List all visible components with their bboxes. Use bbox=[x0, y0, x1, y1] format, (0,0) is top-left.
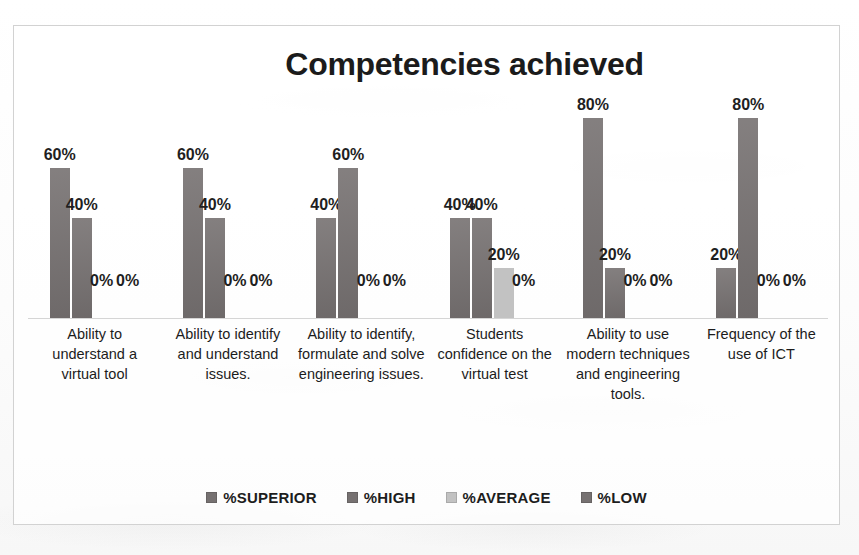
category-axis-line bbox=[28, 318, 828, 319]
category-label: Ability to identify, formulate and solve… bbox=[295, 324, 428, 404]
category-label: Ability to identify and understand issue… bbox=[161, 324, 294, 404]
bar-high[interactable] bbox=[472, 218, 492, 318]
bar-value-label: 0% bbox=[509, 272, 539, 290]
bar-superior[interactable] bbox=[583, 118, 603, 318]
bar-group: 40%40%20%0% bbox=[428, 98, 561, 318]
bar-value-label: 20% bbox=[482, 246, 526, 264]
bar-group: 80%20%0%0% bbox=[561, 98, 694, 318]
bar-value-label: 60% bbox=[171, 146, 215, 164]
bar-superior[interactable] bbox=[183, 168, 203, 318]
bar-group: 60%40%0%0% bbox=[161, 98, 294, 318]
legend-label: %LOW bbox=[598, 489, 647, 506]
legend-item[interactable]: %AVERAGE bbox=[446, 489, 551, 506]
bar-value-label: 0% bbox=[779, 272, 809, 290]
bar-group: 20%80%0%0% bbox=[695, 98, 828, 318]
bar-superior[interactable] bbox=[450, 218, 470, 318]
bar-high[interactable] bbox=[205, 218, 225, 318]
chart-frame: Competencies achieved 60%40%0%0%60%40%0%… bbox=[13, 25, 840, 525]
bar-value-label: 0% bbox=[646, 272, 676, 290]
plot-area: 60%40%0%0%60%40%0%0%40%60%0%0%40%40%20%0… bbox=[28, 98, 828, 318]
bar-superior[interactable] bbox=[716, 268, 736, 318]
legend-label: %SUPERIOR bbox=[223, 489, 317, 506]
chart-legend: %SUPERIOR%HIGH%AVERAGE%LOW bbox=[14, 489, 839, 506]
bar-value-label: 80% bbox=[726, 96, 770, 114]
legend-swatch-icon bbox=[581, 492, 592, 503]
bar-group: 40%60%0%0% bbox=[295, 98, 428, 318]
legend-item[interactable]: %LOW bbox=[581, 489, 647, 506]
bar-value-label: 40% bbox=[193, 196, 237, 214]
legend-item[interactable]: %SUPERIOR bbox=[206, 489, 317, 506]
bar-value-label: 0% bbox=[246, 272, 276, 290]
bar-value-label: 60% bbox=[38, 146, 82, 164]
legend-swatch-icon bbox=[347, 492, 358, 503]
bar-high[interactable] bbox=[338, 168, 358, 318]
bar-high[interactable] bbox=[72, 218, 92, 318]
category-label: Ability to use modern techniques and eng… bbox=[561, 324, 694, 404]
bar-superior[interactable] bbox=[50, 168, 70, 318]
bar-superior[interactable] bbox=[316, 218, 336, 318]
bar-value-label: 40% bbox=[460, 196, 504, 214]
bar-group: 60%40%0%0% bbox=[28, 98, 161, 318]
chart-title: Competencies achieved bbox=[14, 46, 839, 83]
legend-swatch-icon bbox=[446, 492, 457, 503]
legend-swatch-icon bbox=[206, 492, 217, 503]
bar-value-label: 20% bbox=[593, 246, 637, 264]
category-label: Students confidence on the virtual test bbox=[428, 324, 561, 404]
legend-item[interactable]: %HIGH bbox=[347, 489, 416, 506]
bar-value-label: 40% bbox=[60, 196, 104, 214]
category-label: Ability to understand a virtual tool bbox=[28, 324, 161, 404]
bar-value-label: 0% bbox=[379, 272, 409, 290]
bar-value-label: 60% bbox=[326, 146, 370, 164]
legend-label: %AVERAGE bbox=[463, 489, 551, 506]
legend-label: %HIGH bbox=[364, 489, 416, 506]
bar-value-label: 0% bbox=[113, 272, 143, 290]
category-axis-labels: Ability to understand a virtual toolAbil… bbox=[28, 324, 828, 404]
category-label: Frequency of the use of ICT bbox=[695, 324, 828, 404]
bar-value-label: 80% bbox=[571, 96, 615, 114]
